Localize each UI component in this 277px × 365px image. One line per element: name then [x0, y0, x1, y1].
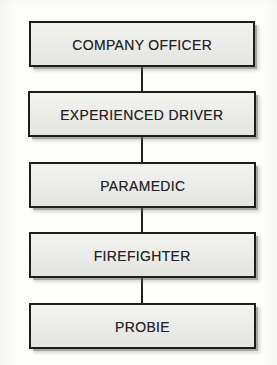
hierarchy-diagram: COMPANY OFFICER EXPERIENCED DRIVER PARAM… [0, 0, 277, 365]
node-label-probie: PROBIE [115, 319, 170, 334]
node-firefighter: FIREFIGHTER [29, 232, 256, 278]
node-experienced-driver: EXPERIENCED DRIVER [28, 91, 256, 137]
node-label-company-officer: COMPANY OFFICER [72, 37, 212, 52]
node-company-officer: COMPANY OFFICER [29, 21, 255, 67]
node-probie: PROBIE [29, 303, 256, 349]
node-label-firefighter: FIREFIGHTER [94, 248, 191, 263]
node-layer: COMPANY OFFICER EXPERIENCED DRIVER PARAM… [0, 0, 277, 365]
node-label-paramedic: PARAMEDIC [100, 178, 185, 193]
node-label-experienced-driver: EXPERIENCED DRIVER [60, 107, 223, 122]
node-paramedic: PARAMEDIC [29, 162, 256, 208]
